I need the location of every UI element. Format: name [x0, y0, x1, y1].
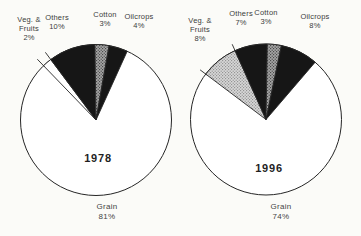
label-1996-others: Others 7%	[229, 10, 253, 27]
label-1996-cotton: Cotton 3%	[254, 9, 277, 26]
label-1978-year: 1978	[84, 152, 112, 164]
label-1978-cotton: Cotton 3%	[93, 11, 116, 28]
label-line: 3%	[254, 18, 277, 27]
label-line: 7%	[229, 19, 253, 28]
label-line: 8%	[188, 34, 211, 43]
label-line: 3%	[93, 20, 116, 29]
label-line: Grain	[270, 202, 291, 212]
pie-charts-figure: Veg. & Fruits 2% Others 10% Cotton 3% Oi…	[0, 0, 361, 236]
label-1996-veg-fruits: Veg. & Fruits 8%	[188, 16, 211, 43]
label-line: 4%	[124, 22, 153, 31]
label-1978-oilcrops: Oilcrops 4%	[124, 13, 153, 30]
label-line: 10%	[45, 23, 69, 32]
label-line: Fruits	[17, 24, 40, 33]
label-1996-grain: Grain 74%	[270, 202, 291, 221]
pie-charts-canvas	[0, 0, 361, 236]
label-line: Veg. &	[188, 16, 211, 25]
label-line: 2%	[17, 33, 40, 42]
label-line: Grain	[96, 202, 117, 212]
label-line: 8%	[300, 22, 329, 31]
label-1978-others: Others 10%	[45, 14, 69, 31]
label-line: 74%	[270, 212, 291, 222]
label-line: Fruits	[188, 25, 211, 34]
label-1996-year: 1996	[255, 162, 283, 174]
label-1978-veg-fruits: Veg. & Fruits 2%	[17, 15, 40, 42]
label-1978-grain: Grain 81%	[96, 202, 117, 221]
label-line: 81%	[96, 212, 117, 222]
label-line: Veg. &	[17, 15, 40, 24]
label-1996-oilcrops: Oilcrops 8%	[300, 13, 329, 30]
